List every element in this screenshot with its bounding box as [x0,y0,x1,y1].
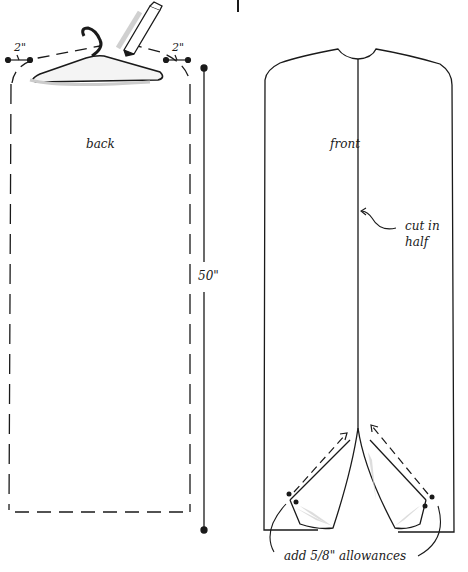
cut-note-line2: half [405,236,428,248]
front-panel-outline [264,49,454,532]
allowances-note: add 5/8" allowances [284,550,406,562]
width-allowance-right-label: 2" [172,42,184,53]
cut-note-line1: cut in [405,220,440,232]
width-allowance-left-label: 2" [14,42,26,53]
back-panel-label: back [86,138,115,150]
dimension-marker-right [164,55,191,63]
cut-arrow-icon [361,208,396,229]
fold-shading [296,452,420,526]
front-panel-label: front [330,138,360,150]
pattern-diagram [0,0,468,572]
fold-arrow-left [294,433,347,492]
length-dimension-label: 50" [198,270,219,282]
fold-arrow-right [371,425,428,494]
allowance-dots [287,492,435,509]
dimension-marker-left [6,55,33,63]
pencil-icon [118,2,162,56]
length-dimension-line [201,65,207,533]
back-panel-outline [9,44,190,512]
